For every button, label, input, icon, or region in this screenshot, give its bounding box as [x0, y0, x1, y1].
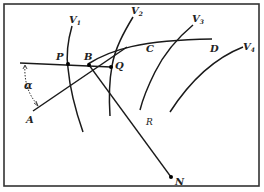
- line-a: [33, 47, 127, 111]
- curve-v3: [140, 25, 193, 110]
- label-v2: V2: [131, 5, 143, 17]
- label-v4: V4: [243, 41, 255, 53]
- label-c: C: [146, 43, 154, 54]
- point-p: [66, 62, 70, 66]
- point-q: [109, 65, 113, 69]
- label-alpha: α: [24, 79, 33, 92]
- label-b: B: [83, 51, 92, 62]
- label-r: R: [145, 117, 153, 127]
- label-v3: V3: [192, 13, 204, 25]
- line-bn: [89, 65, 171, 177]
- point-b: [87, 63, 91, 67]
- label-v1: V1: [69, 14, 81, 26]
- diagram-frame: [4, 4, 259, 186]
- curve-v4: [170, 47, 243, 112]
- diagram-figure: P B Q C D A R N α V1 V2 V3 V4: [0, 0, 264, 192]
- label-d: D: [209, 43, 219, 54]
- label-n: N: [174, 176, 185, 187]
- label-q: Q: [115, 60, 124, 71]
- label-p: P: [55, 51, 64, 62]
- point-n: [169, 175, 173, 179]
- label-a: A: [25, 114, 34, 125]
